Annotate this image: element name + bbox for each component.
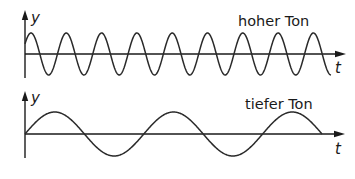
high-x-axis-arrow-icon bbox=[335, 51, 346, 57]
high-y-label: y bbox=[30, 9, 41, 27]
high-tone-plot: y t hoher Ton bbox=[22, 9, 346, 78]
sound-wave-diagram: y t hoher Ton y t tiefer Ton bbox=[0, 0, 355, 179]
low-tone-plot: y t tiefer Ton bbox=[22, 89, 345, 158]
low-y-axis-arrow-icon bbox=[22, 91, 28, 101]
low-x-axis-arrow-icon bbox=[334, 131, 345, 137]
high-t-label: t bbox=[335, 59, 342, 77]
low-t-label: t bbox=[335, 140, 342, 158]
high-y-axis-arrow-icon bbox=[22, 10, 28, 20]
low-tone-title: tiefer Ton bbox=[245, 96, 313, 112]
diagram-canvas: y t hoher Ton y t tiefer Ton bbox=[0, 0, 355, 179]
low-y-label: y bbox=[30, 89, 41, 107]
high-tone-title: hoher Ton bbox=[238, 13, 309, 29]
